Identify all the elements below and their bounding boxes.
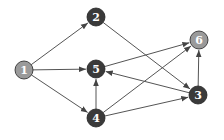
- edge-1-to-5: [33, 69, 86, 70]
- node-label: 6: [195, 34, 203, 47]
- node-label: 3: [194, 89, 202, 102]
- node-4: 4: [87, 109, 105, 127]
- node-label: 5: [92, 63, 100, 76]
- edges-layer: [31, 22, 199, 116]
- edge-3-to-6: [198, 50, 199, 86]
- edge-2-to-3: [103, 22, 190, 88]
- node-2: 2: [87, 8, 105, 26]
- edge-1-to-2: [31, 23, 88, 65]
- nodes-layer: 125634: [15, 8, 208, 127]
- edge-5-to-6: [105, 43, 190, 67]
- node-label: 4: [92, 112, 100, 125]
- node-label: 2: [92, 11, 100, 24]
- edge-4-to-3: [105, 97, 188, 116]
- directed-graph: 125634: [0, 0, 224, 140]
- edge-1-to-4: [31, 75, 87, 112]
- node-3: 3: [189, 86, 207, 104]
- edge-3-to-5: [106, 71, 190, 92]
- node-1: 1: [15, 61, 33, 79]
- node-5: 5: [87, 60, 105, 78]
- node-label: 1: [20, 64, 28, 77]
- node-6: 6: [190, 31, 208, 49]
